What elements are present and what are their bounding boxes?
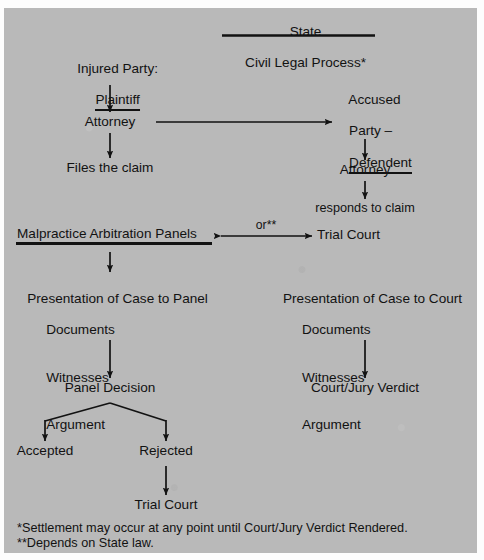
presentation-court-title: Presentation of Case to Court — [283, 291, 462, 306]
evidence-argument-right: Argument — [268, 417, 462, 433]
diagram-page: State Civil Legal Process* Injured Party… — [0, 0, 484, 560]
node-presentation-to-panel: Presentation of Case to Panel Documents … — [12, 275, 208, 464]
title-line-2: Civil Legal Process* — [245, 55, 366, 70]
or-branch-label: or** — [256, 218, 276, 232]
injured-party-label: Injured Party: — [77, 61, 158, 76]
title-line-1: State — [290, 24, 322, 39]
footnote-settlement: *Settlement may occur at any point until… — [17, 521, 408, 536]
node-panel-decision: Panel Decision — [65, 380, 156, 396]
node-rejected: Rejected — [139, 443, 193, 459]
presentation-panel-title: Presentation of Case to Panel — [27, 291, 208, 306]
node-accepted: Accepted — [17, 443, 74, 459]
node-trial-court-middle: Trial Court — [317, 227, 380, 243]
accused-line-1: Accused — [348, 92, 400, 107]
plaintiff-label: Plaintiff — [95, 92, 139, 111]
node-files-the-claim: Files the claim — [67, 160, 154, 176]
node-responds-to-claim: responds to claim — [315, 201, 414, 216]
node-court-jury-verdict: Court/Jury Verdict — [311, 380, 419, 396]
node-trial-court-bottom: Trial Court — [135, 497, 198, 513]
diagram-title: State Civil Legal Process* — [230, 8, 366, 87]
node-malpractice-arbitration-panels: Malpractice Arbitration Panels — [17, 226, 197, 242]
evidence-documents-right: Documents — [268, 322, 462, 338]
evidence-documents-left: Documents — [12, 322, 208, 338]
accused-line-2: Party – — [349, 123, 392, 138]
footnote-state-law: **Depends on State law. — [17, 536, 154, 551]
evidence-argument-left: Argument — [12, 417, 208, 433]
node-attorney-left: Attorney — [85, 114, 136, 130]
node-presentation-to-court: Presentation of Case to Court Documents … — [268, 275, 462, 464]
node-attorney-right: Attorney — [340, 162, 391, 178]
